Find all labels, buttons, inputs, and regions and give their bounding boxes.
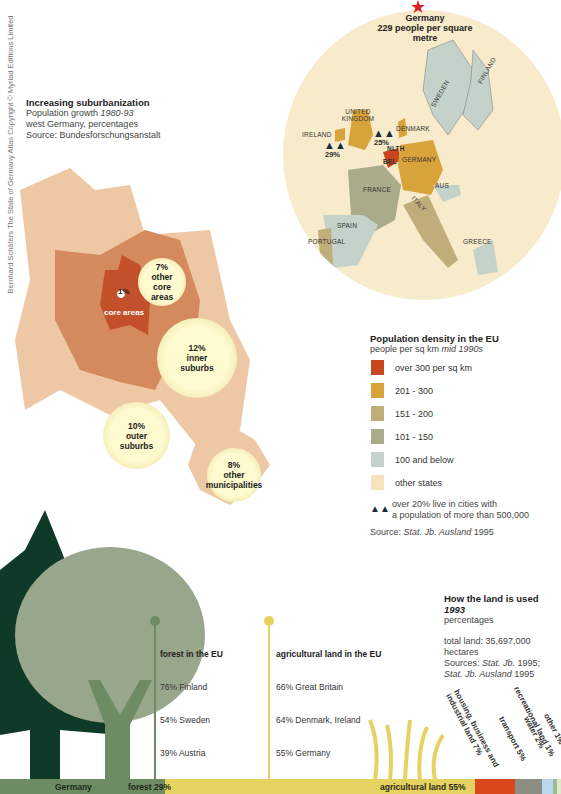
legend-item-151-200: 151 - 200 (371, 406, 433, 421)
bubble-label: other core areas (142, 272, 182, 302)
map-label-germany: GERMANY (402, 156, 436, 163)
bar-segment-other (557, 779, 561, 794)
bubble-label: inner suburbs (177, 353, 217, 373)
legend-item-100-below: 100 and below (371, 452, 454, 467)
legend-swatch (371, 429, 384, 444)
sources-year-2: 1995 (514, 669, 534, 679)
map-label-denmark: DENMARK (396, 125, 430, 132)
suburbanization-title: Increasing suburbanization (26, 97, 161, 108)
sources-title-2: Stat. Jb. Ausland (444, 669, 512, 679)
city-marker-pct-nl: 25% (374, 138, 389, 147)
legend-city-marker-label: over 20% live in cities with a populatio… (392, 499, 529, 521)
bubble-pct: 7% (156, 262, 168, 272)
legend-item-other-states: other states (371, 475, 442, 490)
bar-germany-label: Germany (55, 782, 92, 792)
bar-agri-label: agricultural land 55% (380, 782, 466, 792)
forest-list-item: 39% Austria (160, 748, 263, 759)
forest-list: forest in the EU 76% Finland 54% Sweden … (160, 627, 263, 794)
legend-swatch (371, 406, 384, 421)
legend-source-prefix: Source: (370, 527, 401, 537)
bubble-pct: 12% (188, 343, 205, 353)
legend-swatch (371, 383, 384, 398)
bubble-label: outer suburbs (117, 431, 157, 451)
legend-item-201-300: 201 - 300 (371, 383, 433, 398)
bar-segment-housing (475, 779, 515, 794)
land-use-sources: Sources: Stat. Jb. 1995; (444, 658, 561, 669)
subtitle-years: 1980-93 (101, 108, 134, 118)
legend-item-101-150: 101 - 150 (371, 429, 433, 444)
land-use-year: 1993 (444, 604, 465, 615)
agri-list-item: 55% Germany (276, 748, 381, 759)
agri-pin-line (268, 624, 270, 779)
suburbanization-source: Source: Bundesforschungsanstalt (26, 130, 161, 141)
land-use-title: How the land is used 1993 (444, 593, 561, 615)
bar-segment-water (542, 779, 553, 794)
city-marker-pct-uk: 29% (325, 150, 340, 159)
land-use-header: How the land is used 1993 percentages to… (444, 593, 561, 680)
agri-list-item: 66% Great Britain (276, 682, 381, 693)
legend-city-line-2: a population of more than 500,000 (392, 510, 529, 521)
subtitle-text: Population growth (26, 108, 98, 118)
germany-callout-density: 229 people per square metre (370, 23, 480, 43)
legend-swatch (371, 360, 384, 375)
legend-item-over-300: over 300 per sq km (371, 360, 472, 375)
map-label-spain: SPAIN (337, 222, 357, 229)
legend-city-line-1: over 20% live in cities with (392, 499, 529, 510)
map-label-portugal: PORTUGAL (308, 238, 345, 245)
subtitle-region: west Germany, percentages (26, 119, 161, 130)
germany-callout-name: Germany (370, 13, 480, 23)
legend-source-year: 1995 (474, 527, 494, 537)
legend-header: Population density in the EU people per … (370, 333, 499, 355)
forest-list-heading: forest in the EU (160, 649, 263, 660)
agri-list-item: 64% Denmark, Ireland (276, 715, 381, 726)
core-pct: 1% (118, 287, 130, 296)
legend-source: Source: Stat. Jb. Ausland 1995 (370, 527, 494, 538)
legend-subtitle-period: mid 1990s (442, 344, 484, 354)
suburbanization-subtitle: Population growth 1980-93 (26, 108, 161, 119)
bubble-outer-suburbs: 10% outer suburbs (103, 402, 170, 469)
suburbanization-header: Increasing suburbanization Population gr… (26, 97, 161, 141)
sources-year: 1995; (518, 658, 541, 668)
map-label-netherlands: NLTH (387, 145, 405, 152)
legend-label: 201 - 300 (395, 386, 433, 396)
map-label-belgium: BEL (383, 158, 397, 165)
bar-forest-label: forest 29% (128, 782, 171, 792)
legend-label: 100 and below (395, 455, 454, 465)
land-use-total: total land: 35,697,000 hectares (444, 636, 561, 658)
bubble-label: other municipalities (204, 470, 264, 490)
map-label-france: FRANCE (363, 186, 391, 193)
legend-subtitle: people per sq km mid 1990s (370, 344, 499, 355)
germany-callout: Germany 229 people per square metre (370, 13, 480, 43)
map-label-austria: AUS (435, 182, 449, 189)
legend-label: 101 - 150 (395, 432, 433, 442)
bubble-other-core: 7% other core areas (138, 258, 186, 306)
bar-segment-transport (515, 779, 542, 794)
germany-star-icon: ★ (410, 0, 426, 14)
legend-title: Population density in the EU (370, 333, 499, 344)
legend-swatch (371, 475, 384, 490)
map-label-greece: GREECE (463, 238, 492, 245)
legend-label: 151 - 200 (395, 409, 433, 419)
map-label-ireland: IRELAND (302, 131, 332, 138)
forest-list-item: 76% Finland (160, 682, 263, 693)
legend-label: other states (395, 478, 442, 488)
bubble-pct: 8% (228, 460, 240, 470)
legend-swatch (371, 452, 384, 467)
agri-list-heading: agricultural land in the EU (276, 649, 381, 660)
core-label: core areas (104, 308, 144, 317)
label-housing: housing, business andindustrial land 7% (444, 688, 507, 785)
map-label-uk: UNITED KINGDOM (338, 108, 378, 122)
city-marker-icon: ▲▲ (370, 503, 390, 514)
sources-title: Stat. Jb. (482, 658, 515, 668)
bubble-inner-suburbs: 12% inner suburbs (157, 318, 237, 398)
forest-list-item: 54% Sweden (160, 715, 263, 726)
legend-subtitle-text: people per sq km (370, 344, 439, 354)
agri-list: agricultural land in the EU 66% Great Br… (276, 627, 381, 794)
land-use-sources-2: Stat. Jb. Ausland 1995 (444, 669, 561, 680)
bubble-pct: 10% (128, 421, 145, 431)
legend-source-title: Stat. Jb. Ausland (404, 527, 472, 537)
sources-prefix: Sources: (444, 658, 480, 668)
land-use-title-text: How the land is used (444, 593, 539, 604)
forest-pin-line (154, 624, 156, 779)
legend-label: over 300 per sq km (395, 363, 472, 373)
